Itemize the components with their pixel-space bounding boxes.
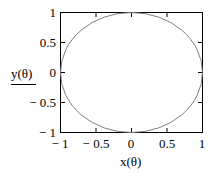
y-tick-label: 1 bbox=[26, 6, 56, 19]
x-ticks bbox=[96, 13, 167, 133]
x-tick-label: 0.5 bbox=[150, 137, 184, 150]
y-ticks bbox=[61, 43, 203, 103]
y-tick-label: − 0.5 bbox=[26, 96, 56, 109]
circle-curve bbox=[61, 13, 203, 133]
x-tick-label: − 1 bbox=[43, 137, 77, 150]
x-tick-label: 0 bbox=[114, 137, 148, 150]
x-tick-label: − 0.5 bbox=[79, 137, 113, 150]
y-axis-label-underline bbox=[11, 84, 36, 85]
plot-frame bbox=[61, 13, 203, 133]
x-axis-label: x(θ) bbox=[120, 154, 141, 170]
x-tick-label: 1 bbox=[185, 137, 216, 150]
y-tick-label: 0.5 bbox=[26, 36, 56, 49]
y-axis-label: y(θ) bbox=[11, 66, 32, 82]
